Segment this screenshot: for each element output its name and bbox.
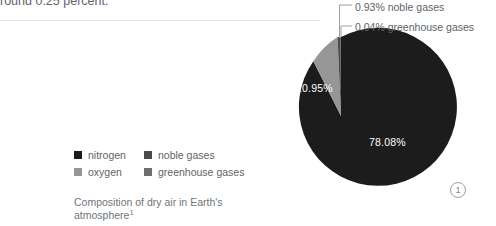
legend-row: nitrogen noble gases [74,149,259,161]
figure-caption: Composition of dry air in Earth's atmosp… [74,196,254,222]
legend-item-oxygen[interactable]: oxygen [74,166,144,178]
chart-legend: nitrogen noble gases oxygen greenhouse g… [74,149,259,183]
legend-swatch-icon [144,151,152,159]
callout-label-noble-gases: 0.93% noble gases [355,1,444,13]
legend-item-label: nitrogen [88,149,126,161]
slice-value-oxygen: 20.95% [296,82,333,94]
legend-item-noble-gases[interactable]: noble gases [144,149,259,161]
legend-item-label: greenhouse gases [158,166,244,178]
legend-row: oxygen greenhouse gases [74,166,259,178]
legend-item-label: oxygen [88,166,122,178]
legend-item-greenhouse-gases[interactable]: greenhouse gases [144,166,259,178]
footnote-marker-badge[interactable]: 1 [450,182,466,198]
clipped-paragraph: round 0.25 percent. [0,0,240,13]
clipped-paragraph-line: round 0.25 percent. [0,0,240,9]
legend-swatch-icon [74,168,82,176]
legend-swatch-icon [74,151,82,159]
figure-caption-text: Composition of dry air in Earth's atmosp… [74,196,222,221]
slice-value-nitrogen: 78.08% [369,136,406,148]
legend-swatch-icon [144,168,152,176]
legend-item-label: noble gases [158,149,215,161]
callout-label-greenhouse-gases: 0.04% greenhouse gases [355,21,474,33]
figure-caption-footnote-mark: 1 [129,208,133,217]
legend-item-nitrogen[interactable]: nitrogen [74,149,144,161]
